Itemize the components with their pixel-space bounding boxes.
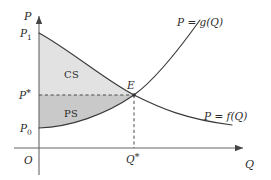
consumer-surplus-label: CS: [64, 69, 79, 80]
origin-label: O: [24, 154, 33, 166]
surplus-diagram: P Q O P1 P* P0 Q*: [0, 0, 271, 180]
price-tick-pstar: P*: [18, 87, 31, 102]
demand-curve-label: P = f(Q): [203, 110, 247, 123]
price-tick-p0: P0: [19, 122, 32, 137]
quantity-tick-qstar-star: *: [135, 151, 140, 162]
supply-curve-label: P = g(Q): [176, 16, 223, 29]
equilibrium-point-marker: [132, 93, 136, 97]
producer-surplus-region: [39, 95, 134, 128]
equilibrium-label: E: [126, 79, 135, 91]
price-tick-p1-subscript: 1: [27, 33, 32, 42]
svg-text:Q*: Q*: [126, 151, 140, 167]
svg-text:P1: P1: [19, 27, 32, 42]
svg-text:P0: P0: [19, 122, 32, 137]
price-tick-pstar-star: *: [26, 87, 31, 98]
price-tick-p1: P1: [19, 27, 32, 42]
price-tick-p0-subscript: 0: [27, 128, 32, 137]
quantity-tick-qstar: Q*: [126, 151, 140, 167]
price-axis-arrow: [36, 16, 42, 24]
quantity-axis-label: Q: [245, 158, 254, 171]
svg-text:P*: P*: [18, 87, 31, 102]
quantity-axis-arrow: [235, 145, 243, 151]
surplus-figure: P Q O P1 P* P0 Q*: [0, 0, 271, 180]
producer-surplus-label: PS: [64, 108, 78, 119]
price-axis-label: P: [23, 10, 32, 23]
